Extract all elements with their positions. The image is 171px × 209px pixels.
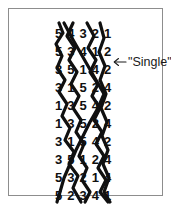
- digit-cell: 4: [102, 171, 113, 184]
- digit-cell: 2: [90, 117, 101, 130]
- digit-cell: 3: [65, 45, 76, 58]
- figure-screenshot: 5 4 3 2 1 5 3 4 1 2 3 5 1 4: [0, 0, 171, 209]
- digit-cell: 2: [102, 45, 113, 58]
- arrow-left-icon: [113, 56, 127, 68]
- digit-cell: 1: [102, 27, 113, 40]
- digit-cell: 1: [53, 99, 64, 112]
- digit-cell: 2: [65, 189, 76, 202]
- digit-row: 3 1 5 4 2: [53, 132, 113, 150]
- digit-cell: 2: [102, 99, 113, 112]
- digit-cell: 5: [53, 171, 64, 184]
- digit-row: 5 4 3 2 1: [53, 24, 113, 42]
- digit-cell: 2: [102, 135, 113, 148]
- digit-row: 3 5 1 2 4: [53, 150, 113, 168]
- single-label: "Single": [128, 56, 171, 69]
- digit-cell: 5: [65, 63, 76, 76]
- digit-cell: 3: [65, 117, 76, 130]
- digit-row: 1 3 5 4 2: [53, 96, 113, 114]
- digit-cell: 4: [90, 99, 101, 112]
- digit-cell: 3: [78, 27, 89, 40]
- digit-cell: 1: [78, 153, 89, 166]
- digit-cell: 4: [102, 81, 113, 94]
- digit-row: 3 5 1 4 2: [53, 60, 113, 78]
- digit-cell: 3: [53, 153, 64, 166]
- digit-cell: 5: [78, 81, 89, 94]
- digit-cell: 5: [78, 99, 89, 112]
- digit-cell: 5: [53, 45, 64, 58]
- digit-cell: 4: [90, 63, 101, 76]
- digit-row: 5 3 2 1 4: [53, 168, 113, 186]
- digit-row: 3 1 5 2 4: [53, 78, 113, 96]
- digit-cell: 1: [90, 171, 101, 184]
- digit-cell: 4: [102, 153, 113, 166]
- digit-cell: 3: [53, 81, 64, 94]
- digit-cell: 4: [65, 27, 76, 40]
- digit-cell: 5: [78, 135, 89, 148]
- digit-cell: 4: [102, 117, 113, 130]
- digit-cell: 2: [90, 81, 101, 94]
- digit-cell: 5: [53, 27, 64, 40]
- digit-cell: 4: [78, 45, 89, 58]
- digit-grid: 5 4 3 2 1 5 3 4 1 2 3 5 1 4: [53, 21, 113, 205]
- digit-row: 5 2 3 4 1: [53, 186, 113, 204]
- digit-cell: 2: [90, 153, 101, 166]
- digit-cell: 1: [65, 81, 76, 94]
- figure-frame: 5 4 3 2 1 5 3 4 1 2 3 5 1 4: [8, 8, 163, 196]
- single-annotation: "Single": [113, 56, 171, 69]
- braid-diagram: 5 4 3 2 1 5 3 4 1 2 3 5 1 4: [53, 21, 113, 205]
- digit-cell: 3: [65, 99, 76, 112]
- digit-cell: 3: [53, 135, 64, 148]
- digit-cell: 3: [78, 189, 89, 202]
- digit-cell: 1: [102, 189, 113, 202]
- digit-cell: 3: [53, 63, 64, 76]
- digit-cell: 5: [53, 189, 64, 202]
- digit-cell: 4: [90, 135, 101, 148]
- digit-cell: 2: [78, 171, 89, 184]
- digit-row: 1 3 5 2 4: [53, 114, 113, 132]
- digit-cell: 3: [65, 171, 76, 184]
- digit-cell: 1: [90, 45, 101, 58]
- digit-cell: 5: [65, 153, 76, 166]
- digit-cell: 2: [102, 63, 113, 76]
- digit-row: 5 3 4 1 2: [53, 42, 113, 60]
- digit-cell: 1: [65, 135, 76, 148]
- digit-cell: 4: [90, 189, 101, 202]
- digit-cell: 1: [78, 63, 89, 76]
- digit-cell: 1: [53, 117, 64, 130]
- digit-cell: 2: [90, 27, 101, 40]
- digit-cell: 5: [78, 117, 89, 130]
